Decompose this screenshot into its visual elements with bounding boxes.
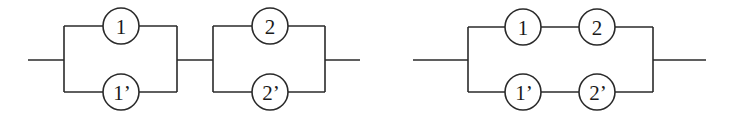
node-2: 2	[579, 9, 615, 45]
diagram-series-of-parallel: 1 1’ 2 2’	[28, 8, 360, 110]
node-2: 2	[252, 8, 288, 44]
node-1-prime: 1’	[103, 74, 139, 110]
node-label: 1’	[113, 81, 131, 105]
node-1: 1	[505, 9, 541, 45]
node-label: 2	[265, 15, 276, 39]
reliability-diagrams: 1 1’ 2 2’ 1 2	[0, 0, 731, 122]
node-label: 2	[592, 16, 603, 40]
node-label: 1	[116, 15, 127, 39]
node-2-prime: 2’	[579, 74, 615, 110]
node-1-prime: 1’	[505, 74, 541, 110]
node-label: 2’	[589, 81, 607, 105]
node-2-prime: 2’	[252, 74, 288, 110]
node-label: 1’	[515, 81, 533, 105]
diagram-parallel-of-series: 1 2 1’ 2’	[413, 9, 706, 110]
node-1: 1	[103, 8, 139, 44]
node-label: 1	[518, 16, 529, 40]
node-label: 2’	[262, 81, 280, 105]
